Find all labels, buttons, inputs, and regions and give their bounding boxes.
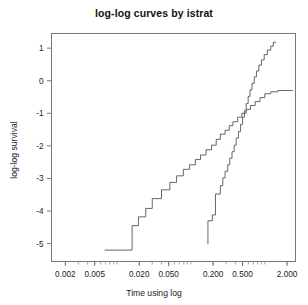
x-tick-label: 0.200 bbox=[203, 270, 224, 279]
y-tick-label: -3 bbox=[22, 174, 44, 183]
y-tick-label: -5 bbox=[22, 239, 44, 248]
y-tick-label: -4 bbox=[22, 207, 44, 216]
x-axis-ticks bbox=[65, 262, 287, 267]
y-tick-label: -1 bbox=[22, 109, 44, 118]
chart-figure: log-log curves by istrat 0.0020.0050.020… bbox=[0, 0, 308, 305]
x-tick-label: 0.002 bbox=[55, 270, 76, 279]
plot-area bbox=[0, 0, 308, 305]
y-axis-title: log-log survival bbox=[9, 90, 19, 210]
x-tick-label: 2.000 bbox=[277, 270, 298, 279]
y-tick-label: 0 bbox=[22, 76, 44, 85]
x-tick-label: 0.050 bbox=[158, 270, 179, 279]
x-tick-label: 0.020 bbox=[129, 270, 150, 279]
data-series bbox=[105, 42, 293, 250]
series-line bbox=[105, 91, 293, 251]
x-axis-title: Time using log bbox=[0, 288, 308, 298]
x-tick-label: 0.005 bbox=[84, 270, 105, 279]
y-tick-label: 1 bbox=[22, 44, 44, 53]
y-tick-label: -2 bbox=[22, 141, 44, 150]
x-tick-label: 0.500 bbox=[232, 270, 253, 279]
series-line bbox=[208, 42, 276, 244]
y-axis-ticks bbox=[47, 48, 52, 243]
